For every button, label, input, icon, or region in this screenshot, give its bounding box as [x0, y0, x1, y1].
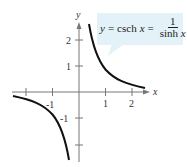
y-axis-label: y	[75, 9, 81, 20]
equation-label: y = csch x = 1 sinh x	[100, 16, 186, 39]
x-tick-label: 2	[129, 98, 134, 109]
eq-var: x	[140, 22, 145, 34]
y-tick-label: 1	[66, 61, 71, 72]
eq-lhs: y	[100, 22, 105, 34]
x-tick-label: 1	[103, 98, 108, 109]
eq-denominator: sinh x	[160, 28, 186, 39]
y-tick-label: -1	[60, 113, 68, 124]
x-axis-label: x	[152, 86, 158, 97]
eq-den-var: x	[181, 27, 186, 39]
callout-pointer	[108, 44, 124, 56]
eq-fraction: 1 sinh x	[160, 16, 186, 39]
eq-equals: =	[108, 22, 114, 34]
eq-sinh: sinh	[160, 27, 178, 39]
eq-equals: =	[148, 22, 154, 34]
y-axis-arrow-icon	[77, 22, 82, 29]
x-axis-arrow-icon	[143, 90, 150, 95]
curve-negative-branch	[13, 96, 69, 160]
y-tick-label: 2	[66, 35, 71, 46]
eq-csch: csch	[117, 22, 137, 34]
